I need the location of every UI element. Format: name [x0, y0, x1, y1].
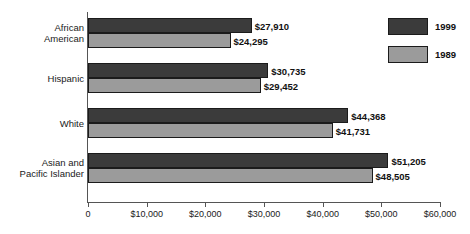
bar-group: $30,735$29,452 — [88, 63, 440, 94]
x-tick-label: 0 — [85, 209, 90, 220]
bar-1989: $29,452 — [88, 78, 261, 93]
category-label-line: American — [0, 33, 84, 44]
bar-group: $44,368$41,731 — [88, 108, 440, 139]
legend-label: 1999 — [435, 21, 456, 32]
category-label: AfricanAmerican — [0, 22, 84, 44]
bar-value-label: $51,205 — [391, 155, 425, 166]
x-tick — [440, 202, 441, 207]
x-tick — [381, 202, 382, 207]
x-tick — [264, 202, 265, 207]
plot-area: $27,910$24,295$30,735$29,452$44,368$41,7… — [88, 12, 440, 202]
category-label-line: White — [0, 118, 84, 129]
x-tick — [88, 202, 89, 207]
legend-swatch — [388, 18, 428, 35]
x-tick-label: $40,000 — [306, 209, 339, 220]
bar-value-label: $48,505 — [376, 170, 410, 181]
bar-chart: 0$10,000$20,000$30,000$40,000$50,000$60,… — [0, 0, 470, 234]
bar-1989: $41,731 — [88, 123, 333, 138]
bar-1999: $30,735 — [88, 63, 268, 78]
category-label: Asian andPacific Islander — [0, 157, 84, 179]
x-tick-label: $50,000 — [365, 209, 398, 220]
x-tick-label: $10,000 — [130, 209, 163, 220]
legend-swatch — [388, 46, 428, 63]
x-tick-label: $20,000 — [189, 209, 222, 220]
x-tick — [323, 202, 324, 207]
bar-1989: $24,295 — [88, 33, 231, 48]
bar-1989: $48,505 — [88, 168, 373, 183]
x-tick-label: $30,000 — [248, 209, 281, 220]
x-tick — [205, 202, 206, 207]
bar-value-label: $29,452 — [264, 80, 298, 91]
x-tick-label: $60,000 — [424, 209, 457, 220]
bar-1999: $44,368 — [88, 108, 348, 123]
bar-value-label: $24,295 — [234, 35, 268, 46]
category-label-line: Pacific Islander — [0, 168, 84, 179]
bar-value-label: $44,368 — [351, 110, 385, 121]
category-label-line: Asian and — [0, 157, 84, 168]
bar-value-label: $30,735 — [271, 65, 305, 76]
category-label: White — [0, 118, 84, 129]
category-label-line: Hispanic — [0, 73, 84, 84]
bar-group: $51,205$48,505 — [88, 153, 440, 184]
category-label: Hispanic — [0, 73, 84, 84]
legend-label: 1989 — [435, 49, 456, 60]
bar-value-label: $27,910 — [255, 20, 289, 31]
x-tick — [147, 202, 148, 207]
bar-1999: $27,910 — [88, 18, 252, 33]
bar-1999: $51,205 — [88, 153, 388, 168]
bar-value-label: $41,731 — [336, 125, 370, 136]
category-label-line: African — [0, 22, 84, 33]
